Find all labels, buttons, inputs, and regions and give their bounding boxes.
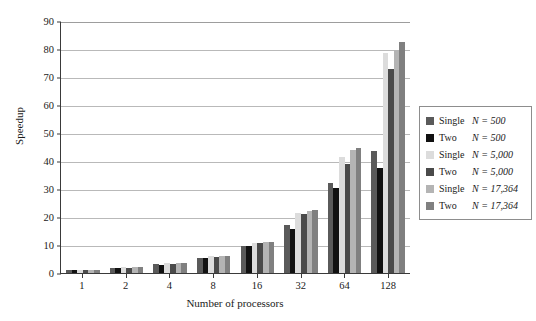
x-axis-tick-text: 64	[339, 280, 350, 291]
legend-swatch-icon	[426, 202, 434, 210]
x-axis-tick-text: 4	[167, 280, 172, 291]
y-axis-tick-mark	[57, 190, 61, 191]
bar-group	[192, 22, 236, 273]
bar	[399, 42, 405, 273]
x-axis-tick-mark	[388, 274, 389, 278]
legend-item-n: N = 17,364	[472, 183, 518, 194]
y-axis-title: Speedup	[13, 81, 25, 171]
y-axis-tick-mark	[57, 50, 61, 51]
x-axis-tick-mark	[82, 274, 83, 278]
bar-group	[148, 22, 192, 273]
legend-item-n: N = 500	[472, 115, 505, 126]
legend-item-n: N = 17,364	[472, 200, 518, 211]
speedup-bar-chart: Speedup 0102030405060708090 124816326412…	[0, 0, 536, 321]
chart-legend: SingleN = 500TwoN = 500SingleN = 5,000Tw…	[419, 106, 532, 220]
legend-swatch-icon	[426, 168, 434, 176]
x-axis-title: Number of processors	[60, 297, 410, 309]
bar	[269, 242, 275, 273]
y-axis-tick-mark	[57, 106, 61, 107]
legend-item[interactable]: SingleN = 500	[426, 112, 526, 129]
x-axis-tick-label: 8	[191, 274, 235, 294]
legend-item-kind: Single	[439, 183, 472, 194]
x-axis-tick-text: 32	[295, 280, 306, 291]
x-axis-ticks: 1248163264128	[60, 274, 410, 294]
legend-item[interactable]: SingleN = 5,000	[426, 146, 526, 163]
legend-item[interactable]: TwoN = 17,364	[426, 197, 526, 214]
x-axis-tick-text: 128	[380, 280, 396, 291]
x-axis-tick-label: 32	[279, 274, 323, 294]
x-axis-tick-text: 2	[123, 280, 128, 291]
x-axis-tick-label: 1	[60, 274, 104, 294]
x-axis-tick-mark	[213, 274, 214, 278]
bar-group	[236, 22, 280, 273]
legend-swatch-icon	[426, 151, 434, 159]
y-axis-tick-mark	[57, 134, 61, 135]
bar	[225, 256, 231, 273]
bar-group	[105, 22, 149, 273]
legend-item-n: N = 500	[472, 132, 505, 143]
x-axis-tick-mark	[169, 274, 170, 278]
legend-swatch-icon	[426, 134, 434, 142]
x-axis-tick-label: 128	[366, 274, 410, 294]
legend-item[interactable]: TwoN = 500	[426, 129, 526, 146]
bar-group	[366, 22, 410, 273]
legend-item[interactable]: SingleN = 17,364	[426, 180, 526, 197]
legend-swatch-icon	[426, 185, 434, 193]
y-axis-tick-mark	[57, 246, 61, 247]
y-axis-tick-mark	[57, 78, 61, 79]
legend-swatch-icon	[426, 117, 434, 125]
bar	[312, 210, 318, 273]
legend-item-kind: Two	[439, 132, 472, 143]
y-axis-tick-mark	[57, 218, 61, 219]
x-axis-tick-label: 2	[104, 274, 148, 294]
legend-item-kind: Single	[439, 149, 472, 160]
bar-group	[61, 22, 105, 273]
legend-item-n: N = 5,000	[472, 149, 513, 160]
plot-area: 0102030405060708090	[60, 22, 410, 274]
bar-group	[279, 22, 323, 273]
x-axis-tick-mark	[301, 274, 302, 278]
x-axis-tick-mark	[126, 274, 127, 278]
legend-item[interactable]: TwoN = 5,000	[426, 163, 526, 180]
legend-item-kind: Single	[439, 115, 472, 126]
bar	[181, 263, 187, 273]
legend-item-kind: Two	[439, 200, 472, 211]
bar-group	[323, 22, 367, 273]
y-axis-tick-mark	[57, 22, 61, 23]
bar	[138, 267, 144, 273]
x-axis-tick-mark	[257, 274, 258, 278]
x-axis-tick-mark	[344, 274, 345, 278]
bar-groups	[61, 22, 410, 273]
x-axis-tick-label: 4	[148, 274, 192, 294]
x-axis-tick-label: 64	[323, 274, 367, 294]
x-axis-tick-text: 16	[252, 280, 263, 291]
x-axis-tick-label: 16	[235, 274, 279, 294]
legend-item-kind: Two	[439, 166, 472, 177]
bar	[94, 270, 100, 273]
y-axis-tick-mark	[57, 162, 61, 163]
x-axis-tick-text: 1	[79, 280, 84, 291]
x-axis-tick-text: 8	[211, 280, 216, 291]
bar	[356, 148, 362, 273]
legend-item-n: N = 5,000	[472, 166, 513, 177]
